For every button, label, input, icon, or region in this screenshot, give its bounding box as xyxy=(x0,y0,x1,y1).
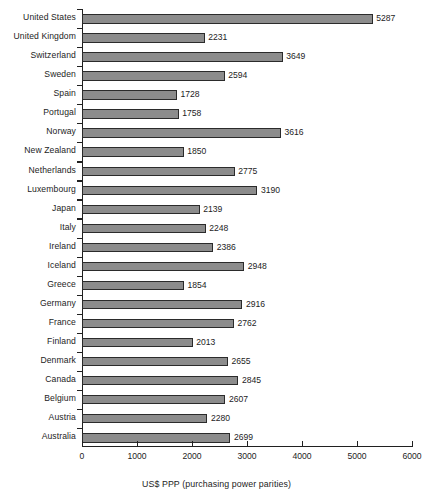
bar[interactable] xyxy=(82,300,242,309)
bar-value-label: 1758 xyxy=(182,108,201,119)
category-label: Sweden xyxy=(0,69,76,79)
plot-area: United States5287United Kingdom2231Switz… xyxy=(0,0,433,501)
category-label: Ireland xyxy=(0,241,76,251)
bar[interactable] xyxy=(82,414,207,423)
bar[interactable] xyxy=(82,186,257,195)
x-axis-title: US$ PPP (purchasing power parities) xyxy=(0,479,433,489)
bar-row: Denmark2655 xyxy=(0,352,433,372)
bar-value-label: 2845 xyxy=(242,375,261,386)
category-label: Greece xyxy=(0,279,76,289)
bar-value-label: 1728 xyxy=(181,89,200,100)
bar-row: France2762 xyxy=(0,314,433,334)
bar-row: New Zealand1850 xyxy=(0,142,433,162)
bar-row: United Kingdom2231 xyxy=(0,28,433,48)
y-axis-tick xyxy=(77,257,82,258)
bar-row: Norway3616 xyxy=(0,123,433,143)
category-label: Japan xyxy=(0,203,76,213)
category-label: New Zealand xyxy=(0,145,76,155)
bar-value-label: 2280 xyxy=(211,413,230,424)
bar[interactable] xyxy=(82,319,234,328)
category-label: Finland xyxy=(0,336,76,346)
bar-value-label: 2013 xyxy=(196,337,215,348)
bar-value-label: 3649 xyxy=(286,51,305,62)
x-axis-tick xyxy=(247,441,248,447)
bar[interactable] xyxy=(82,338,193,347)
category-label: Australia xyxy=(0,431,76,441)
y-axis-tick xyxy=(77,352,82,353)
x-axis-tick xyxy=(82,441,83,447)
x-axis-tick xyxy=(137,441,138,447)
y-axis-tick xyxy=(77,66,82,67)
bar[interactable] xyxy=(82,357,228,366)
category-label: Luxembourg xyxy=(0,184,76,194)
bar[interactable] xyxy=(82,262,244,271)
bar[interactable] xyxy=(82,243,213,252)
bar-row: Australia2699 xyxy=(0,428,433,448)
bar[interactable] xyxy=(82,205,200,214)
category-label: Spain xyxy=(0,88,76,98)
bar-value-label: 2699 xyxy=(234,432,253,443)
bar[interactable] xyxy=(82,14,373,23)
y-axis-tick xyxy=(77,409,82,410)
bar-row: Finland2013 xyxy=(0,333,433,353)
x-axis-tick xyxy=(357,441,358,447)
bar-row: Netherlands2775 xyxy=(0,161,433,181)
bar[interactable] xyxy=(82,52,283,61)
bar-value-label: 2139 xyxy=(203,204,222,215)
y-axis-tick xyxy=(77,161,82,162)
bar-row: Ireland2386 xyxy=(0,238,433,258)
y-axis-tick xyxy=(77,428,82,429)
category-label: Norway xyxy=(0,126,76,136)
bar-row: United States5287 xyxy=(0,9,433,29)
bar-row: Luxembourg3190 xyxy=(0,180,433,200)
x-axis-tick-label: 6000 xyxy=(392,451,432,462)
bar[interactable] xyxy=(82,71,225,80)
bar[interactable] xyxy=(82,109,179,118)
y-axis-tick xyxy=(77,123,82,124)
category-label: Austria xyxy=(0,412,76,422)
y-axis-tick xyxy=(77,218,82,219)
bar[interactable] xyxy=(82,90,177,99)
x-axis-tick xyxy=(192,441,193,447)
x-axis-tick xyxy=(302,441,303,447)
x-axis-tick-label: 1000 xyxy=(117,451,157,462)
y-axis-tick xyxy=(77,85,82,86)
category-label: Iceland xyxy=(0,260,76,270)
category-label: Switzerland xyxy=(0,50,76,60)
bar-value-label: 2948 xyxy=(248,261,267,272)
bar-row: Germany2916 xyxy=(0,295,433,315)
bar[interactable] xyxy=(82,33,205,42)
y-axis-tick xyxy=(77,9,82,10)
bar[interactable] xyxy=(82,167,235,176)
y-axis-tick xyxy=(77,104,82,105)
y-axis-tick xyxy=(77,238,82,239)
x-axis-tick-label: 4000 xyxy=(282,451,322,462)
bar[interactable] xyxy=(82,147,184,156)
bar-row: Switzerland3649 xyxy=(0,47,433,67)
category-label: Portugal xyxy=(0,107,76,117)
category-label: France xyxy=(0,317,76,327)
bar-value-label: 2607 xyxy=(229,394,248,405)
bar[interactable] xyxy=(82,128,281,137)
category-label: Denmark xyxy=(0,355,76,365)
bar[interactable] xyxy=(82,395,225,404)
y-axis-tick xyxy=(77,180,82,181)
category-label: United States xyxy=(0,12,76,22)
y-axis-tick xyxy=(77,199,82,200)
bar-value-label: 2655 xyxy=(232,356,251,367)
y-axis-tick xyxy=(77,142,82,143)
bar-value-label: 2762 xyxy=(237,318,256,329)
bar[interactable] xyxy=(82,433,230,442)
y-axis-tick xyxy=(77,276,82,277)
bar-value-label: 2231 xyxy=(208,32,227,43)
bar-value-label: 2594 xyxy=(228,70,247,81)
bar-chart: United States5287United Kingdom2231Switz… xyxy=(0,0,433,501)
bar[interactable] xyxy=(82,281,184,290)
bar[interactable] xyxy=(82,224,206,233)
bar-value-label: 5287 xyxy=(376,13,395,24)
bar-value-label: 1854 xyxy=(187,280,206,291)
bar[interactable] xyxy=(82,376,238,385)
bar-row: Sweden2594 xyxy=(0,66,433,86)
y-axis-tick xyxy=(77,371,82,372)
y-axis-tick xyxy=(77,390,82,391)
